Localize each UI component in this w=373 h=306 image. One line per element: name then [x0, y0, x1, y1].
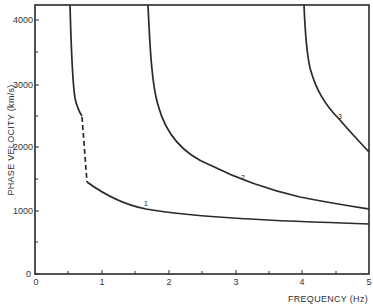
curve-3-label: 3 — [338, 113, 342, 120]
y-tick-4000: 4000 — [13, 15, 33, 25]
curve-3 — [304, 5, 369, 152]
y-tick-0: 0 — [26, 269, 31, 279]
x-axis-title: FREQUENCY (Hz) — [288, 294, 368, 304]
x-tick-0: 0 — [33, 277, 38, 287]
plot-frame — [35, 5, 369, 274]
dispersion-chart: 0 1000 2000 3000 4000 0 1 2 3 4 5 PHASE … — [0, 0, 373, 306]
y-tick-1000: 1000 — [13, 206, 33, 216]
curve-1-steep — [70, 5, 82, 116]
x-tick-5: 5 — [366, 277, 371, 287]
curve-1-label: 1 — [144, 200, 148, 207]
curve-2-label: 2 — [241, 174, 245, 181]
curve-2 — [148, 5, 369, 209]
x-tick-2: 2 — [166, 277, 171, 287]
curve-1-dashed — [82, 117, 87, 182]
x-tick-1: 1 — [99, 277, 104, 287]
x-tick-4: 4 — [299, 277, 304, 287]
x-axis-tick-labels: 0 1 2 3 4 5 — [33, 277, 371, 287]
curve-1-flat — [87, 182, 369, 224]
x-tick-3: 3 — [233, 277, 238, 287]
y-axis-title: PHASE VELOCITY (km/s) — [6, 84, 16, 195]
